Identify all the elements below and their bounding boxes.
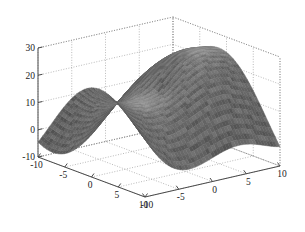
grid-line <box>38 17 173 48</box>
axis-line <box>176 186 179 190</box>
y-tick-label: 0 <box>88 180 93 190</box>
axis-line <box>210 178 213 182</box>
z-tick-label: 20 <box>26 71 36 81</box>
z-tick-label: 10 <box>26 98 36 108</box>
axis-line <box>118 184 121 188</box>
y-tick-label: 5 <box>114 190 119 200</box>
surface-mesh <box>38 46 280 169</box>
surface-plot-canvas: -1001020301050-5-10-10-50510 <box>0 0 305 232</box>
x-tick-label: -10 <box>141 200 154 210</box>
z-tick-label: 30 <box>26 43 36 53</box>
axis-line <box>92 174 95 178</box>
x-tick-label: 5 <box>246 177 251 187</box>
figure-3d-surface-plot: -1001020301050-5-10-10-50510 <box>0 0 305 232</box>
axis-line <box>244 170 247 174</box>
x-tick-label: -5 <box>177 192 185 202</box>
axis-line <box>65 164 68 168</box>
x-tick-label: 0 <box>212 185 217 195</box>
y-tick-label: -5 <box>59 170 67 180</box>
axis-line <box>38 47 43 48</box>
x-tick-label: 10 <box>277 169 287 179</box>
axis-line <box>38 102 43 103</box>
y-tick-label: -10 <box>30 160 43 170</box>
axis-line <box>38 74 43 75</box>
axis-line <box>38 129 43 130</box>
z-tick-label: 0 <box>30 125 35 135</box>
